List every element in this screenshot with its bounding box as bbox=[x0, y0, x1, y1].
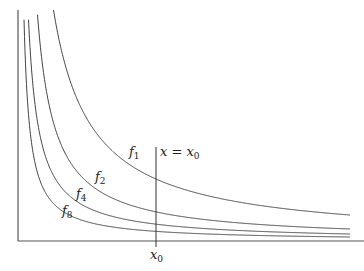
curve-f1 bbox=[54, 10, 351, 215]
curve-label-f8: f8 bbox=[61, 203, 73, 220]
curve-label-f1: f1 bbox=[128, 144, 140, 161]
vertical-line-label: x = x0 bbox=[160, 144, 200, 161]
curve-f4 bbox=[29, 20, 351, 234]
curve-label-f4: f4 bbox=[75, 186, 87, 203]
curve-family bbox=[24, 10, 350, 237]
curve-label-f2: f2 bbox=[94, 169, 106, 186]
curve-f8 bbox=[24, 20, 350, 237]
curve-labels: f1f2f4f8 bbox=[61, 144, 140, 220]
x0-tick-label: x0 bbox=[150, 247, 163, 264]
diagram-canvas: x = x0 x0 f1f2f4f8 bbox=[0, 0, 364, 271]
